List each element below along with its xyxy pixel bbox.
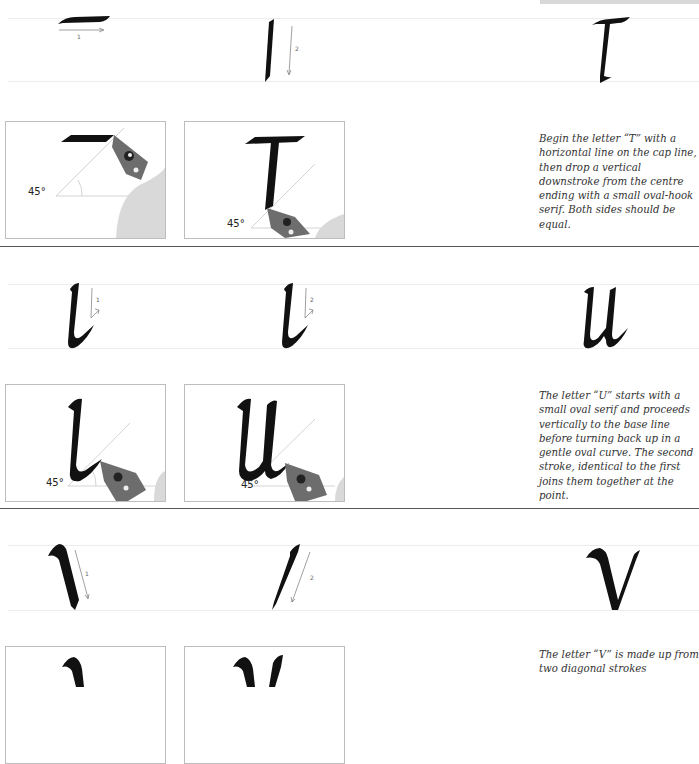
stroke-1-diagram: 1 xyxy=(55,10,115,40)
stroke-1-diagram: 1 xyxy=(62,280,112,352)
arrow-down-icon xyxy=(287,26,292,75)
angle-label: 45° xyxy=(28,186,46,197)
stroke-2-diagram: 2 xyxy=(268,542,318,614)
technique-photo: 45° xyxy=(184,121,345,239)
stroke-2-diagram: 2 xyxy=(262,16,302,86)
angle-label: 45° xyxy=(46,477,64,488)
angle-label: 45° xyxy=(227,218,245,229)
technique-photo xyxy=(5,646,166,764)
arrow-down-up-icon xyxy=(305,288,313,318)
arrow-down-up-icon xyxy=(91,288,99,318)
svg-text:1: 1 xyxy=(96,296,100,303)
svg-text:2: 2 xyxy=(310,296,314,303)
top-bar xyxy=(540,0,699,4)
section-divider xyxy=(0,246,699,247)
technique-photo: 45° xyxy=(5,384,166,502)
arrow-right-icon xyxy=(59,28,104,32)
angle-label: 45° xyxy=(241,479,259,490)
instruction-text: The letter “U” starts with a small oval … xyxy=(539,389,699,503)
section-divider xyxy=(0,508,699,509)
technique-photo xyxy=(184,646,345,764)
stroke-2-diagram: 2 xyxy=(276,280,326,352)
svg-text:2: 2 xyxy=(310,574,314,581)
instruction-text: Begin the letter “T” with a horizontal l… xyxy=(539,132,699,232)
svg-text:2: 2 xyxy=(295,45,299,52)
finished-letter-u xyxy=(582,282,642,352)
technique-photo: 45° xyxy=(184,384,345,502)
technique-photo: 45° xyxy=(5,121,166,239)
svg-text:1: 1 xyxy=(77,33,81,40)
stroke-1-diagram: 1 xyxy=(45,540,95,612)
finished-letter-v xyxy=(584,544,644,614)
instruction-text: The letter “V” is made up from two diago… xyxy=(539,648,699,677)
finished-letter-t xyxy=(590,14,640,86)
svg-text:1: 1 xyxy=(85,570,89,577)
